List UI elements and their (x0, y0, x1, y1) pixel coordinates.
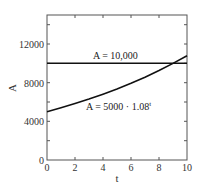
y-tick-label: 4000 (24, 116, 44, 127)
chart: 0 4000 8000 12000 0 2 4 6 8 10 t A A = 1… (0, 0, 200, 186)
plot-frame (47, 15, 187, 160)
x-tick-label: 2 (73, 162, 78, 173)
annotation-constant: A = 10,000 (93, 50, 138, 61)
y-tick-label: 8000 (24, 78, 44, 89)
y-axis-label: A (6, 84, 18, 92)
x-tick-label: 4 (101, 162, 106, 173)
x-tick-label: 8 (157, 162, 162, 173)
x-tick-label: 10 (182, 162, 192, 173)
annotation-exponential: A = 5000 · 1.08t (86, 100, 151, 112)
y-tick-label: 0 (39, 155, 44, 166)
x-tick-label: 6 (129, 162, 134, 173)
y-tick-label: 12000 (19, 39, 44, 50)
annotation-exponential-exponent: t (149, 100, 151, 108)
x-tick-label: 0 (45, 162, 50, 173)
x-axis-label: t (115, 172, 118, 184)
annotation-exponential-base: A = 5000 · 1.08 (86, 101, 149, 112)
